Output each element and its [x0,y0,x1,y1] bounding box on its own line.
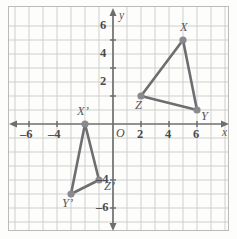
vertex-label-x: X [180,21,188,34]
y-axis-label: y [119,10,124,22]
vertex-label-y-prime: Y’ [62,197,73,210]
vertex-point-x [179,36,186,43]
x-tick-label-4: 4 [165,128,171,141]
coordinate-plane-figure: y x O –6 –4 2 4 6 6 4 2 –4 –6 X Y Z X’ Y… [0,0,237,239]
vertex-label-z-prime: Z’ [104,180,115,193]
vertex-point-x-prime [81,120,88,127]
y-tick-label-2: 2 [100,75,106,88]
vertex-label-x-prime: X’ [77,105,89,118]
vertex-point-y [193,106,200,113]
vertex-label-z: Z [135,99,142,112]
x-tick-label-6: 6 [193,128,199,141]
y-tick-label-6: 6 [100,19,106,32]
y-tick-label-neg6: –6 [96,201,109,214]
x-tick-label-neg6: –6 [20,128,33,141]
x-tick-label-neg4: –4 [48,128,61,141]
vertex-label-y: Y [201,110,208,123]
x-tick-label-2: 2 [137,128,143,141]
y-tick-label-4: 4 [100,47,106,60]
origin-label: O [116,127,125,139]
x-axis-label: x [222,127,227,139]
